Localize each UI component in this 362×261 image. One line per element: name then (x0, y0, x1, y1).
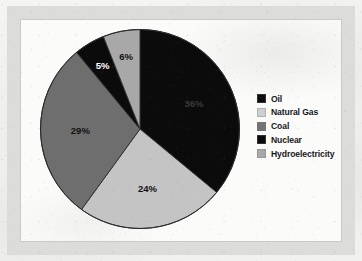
plot-area: 36%24%29%5%6% Oil Natural Gas Coal Nucle… (20, 19, 342, 242)
legend-item-nuclear[interactable]: Nuclear (257, 133, 343, 146)
legend-item-hydroelectricity[interactable]: Hydroelectricity (257, 147, 343, 160)
legend-label-coal: Coal (271, 121, 289, 131)
legend-item-coal[interactable]: Coal (257, 120, 343, 133)
pie-slice-label: 36% (185, 98, 205, 109)
pie-container: 36%24%29%5%6% (37, 26, 243, 232)
legend-item-oil[interactable]: Oil (257, 92, 343, 105)
legend-label-natural-gas: Natural Gas (271, 107, 318, 117)
legend: Oil Natural Gas Coal Nuclear Hydroelectr… (257, 92, 343, 161)
pie-slice-label: 5% (96, 60, 110, 71)
pie-slice-label: 6% (119, 51, 133, 62)
legend-swatch-oil (257, 94, 266, 103)
pie-chart-figure: 36%24%29%5%6% Oil Natural Gas Coal Nucle… (0, 0, 362, 261)
pie-chart-svg: 36%24%29%5%6% (37, 26, 243, 232)
legend-swatch-hydroelectricity (257, 149, 266, 158)
pie-slice-label: 29% (71, 125, 91, 136)
legend-label-hydroelectricity: Hydroelectricity (271, 149, 334, 159)
legend-swatch-natural-gas (257, 108, 266, 117)
legend-item-natural-gas[interactable]: Natural Gas (257, 106, 343, 119)
legend-label-oil: Oil (271, 94, 282, 104)
pie-slice-label: 24% (138, 183, 158, 194)
legend-swatch-coal (257, 122, 266, 131)
legend-swatch-nuclear (257, 135, 266, 144)
legend-label-nuclear: Nuclear (271, 135, 302, 145)
